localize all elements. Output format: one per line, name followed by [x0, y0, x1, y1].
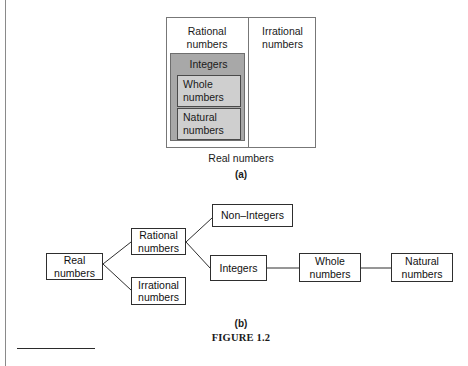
venn-label-irrational: Irrational numbers	[249, 25, 316, 50]
tree-node-whole-numbers: Whole numbers	[299, 253, 361, 282]
tree-node-irrational-numbers: Irrational numbers	[131, 277, 186, 305]
footnote-rule	[17, 348, 95, 349]
venn-label-integers: Integers	[171, 58, 246, 71]
venn-label-whole-numbers: Whole numbers	[178, 78, 241, 103]
venn-caption-real-numbers: Real numbers	[166, 152, 316, 164]
figure-caption: FIGURE 1.2	[146, 332, 336, 343]
venn-diagram-real-numbers: Rational numbers Irrational numbers Inte…	[166, 17, 316, 148]
venn-label-rational: Rational numbers	[167, 25, 247, 50]
tree-node-natural-numbers: Natural numbers	[391, 253, 453, 282]
figure-page: Rational numbers Irrational numbers Inte…	[0, 0, 468, 366]
subfigure-label-a: (a)	[166, 169, 316, 180]
venn-box-natural-numbers: Natural numbers	[177, 108, 241, 140]
venn-label-natural-numbers: Natural numbers	[178, 111, 241, 136]
tree-node-rational-numbers: Rational numbers	[131, 228, 186, 255]
venn-box-integers: Integers Whole numbers Natural numbers	[170, 53, 245, 141]
tree-diagram-number-sets: Real numbers Rational numbers Irrational…	[0, 196, 468, 316]
subfigure-label-b: (b)	[166, 318, 316, 329]
tree-node-integers: Integers	[210, 255, 267, 281]
tree-node-real-numbers: Real numbers	[46, 253, 103, 280]
venn-box-whole-numbers: Whole numbers	[177, 75, 241, 107]
tree-node-non-integers: Non–Integers	[212, 204, 293, 227]
